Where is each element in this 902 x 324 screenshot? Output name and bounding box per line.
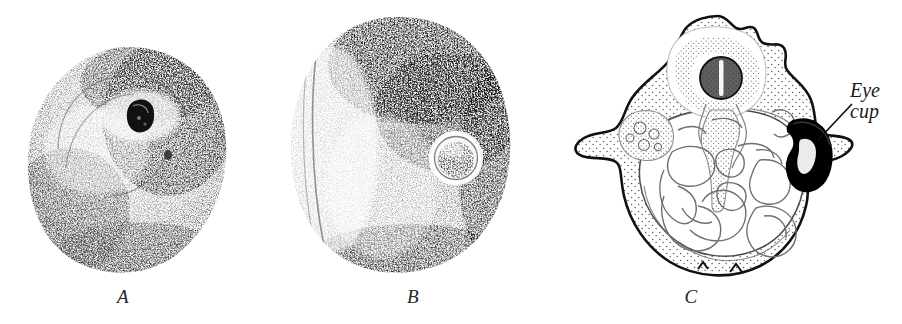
- eye-cup: [786, 119, 832, 191]
- panel-label-b: B: [268, 287, 558, 306]
- panel-c-figure: [560, 0, 902, 290]
- panel-a-eye-pigment-spot: [127, 100, 154, 133]
- eye-cup-leader-line: [818, 104, 852, 140]
- panel-label-c: C: [520, 287, 862, 306]
- panel-b-body: [270, 0, 560, 290]
- panel-c-granular-cluster: [619, 111, 674, 161]
- panel-b-figure: [270, 0, 560, 290]
- panel-a-body: [0, 0, 270, 290]
- panel-a: A: [0, 0, 270, 324]
- figure-plate: A: [0, 0, 902, 324]
- panel-c: Eye cup C: [560, 0, 902, 324]
- panel-b: B: [270, 0, 560, 324]
- panel-c-pigment-body: [700, 57, 742, 99]
- panel-a-figure: [0, 0, 270, 290]
- panel-label-a: A: [0, 287, 258, 306]
- panel-a-dark-fleck: [164, 150, 172, 160]
- eye-cup-label: Eye cup: [850, 80, 880, 122]
